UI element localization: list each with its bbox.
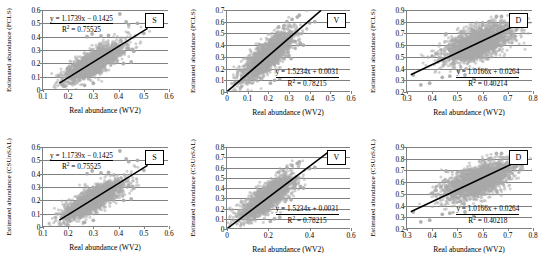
- y-axis-tick-mark: [224, 69, 227, 70]
- x-axis-tick-label: 0.4: [305, 94, 314, 103]
- y-axis-tick-mark: [404, 45, 407, 46]
- y-axis-tick-mark: [404, 206, 407, 207]
- y-axis-tick-mark: [224, 157, 227, 158]
- x-axis-tick-label: 0: [225, 231, 229, 240]
- x-axis-tick-label: 0.3: [89, 92, 98, 101]
- x-axis-tick-mark: [144, 89, 145, 92]
- panel-row-bottom: Estimated abundance (CSUnSAL)00.10.20.30…: [0, 137, 548, 274]
- x-axis-tick-mark: [351, 228, 352, 231]
- x-axis-tick-mark: [330, 91, 331, 94]
- x-axis-tick-label: 0.6: [478, 231, 487, 240]
- x-axis-label: Real abundance (WV2): [226, 245, 350, 254]
- x-axis-tick-mark: [457, 91, 458, 94]
- x-axis-label: Real abundance (WV2): [42, 243, 168, 252]
- regression-equation: y = 1.5234x + 0.0031: [276, 204, 339, 213]
- x-axis-tick-mark: [432, 91, 433, 94]
- x-axis-tick-label: 0.5: [139, 92, 148, 101]
- x-axis-tick-mark: [483, 228, 484, 231]
- y-axis-label-text: Estimated abundance (CSUnSAL): [5, 138, 13, 236]
- x-axis-tick-label: 0.4: [114, 92, 123, 101]
- regression-r2: R2 = 0.40214: [456, 77, 519, 89]
- y-axis-tick-mark: [40, 63, 43, 64]
- x-axis-tick-mark: [407, 91, 408, 94]
- regression-equation: y = 1.1739x − 0.1425: [50, 151, 113, 160]
- y-axis-label: Estimated abundance (CSUnSAL): [2, 147, 16, 227]
- regression-equation: y = 1.5234x + 0.0031: [276, 67, 339, 76]
- x-axis-tick-mark: [227, 91, 228, 94]
- panel-top-right: Estimated abundance (FCLS)0.20.30.40.50.…: [368, 0, 548, 137]
- y-axis-label-text: Estimated abundance (FCLS): [189, 9, 197, 93]
- x-axis-tick-mark: [248, 91, 249, 94]
- x-axis-tick-mark: [68, 89, 69, 92]
- x-axis-tick-label: 0.3: [284, 94, 293, 103]
- y-axis-tick-mark: [40, 23, 43, 24]
- x-axis-tick-label: 0.3: [89, 229, 98, 238]
- y-axis-tick-mark: [40, 174, 43, 175]
- y-axis-label-text: Estimated abundance (FCLS): [5, 8, 13, 92]
- y-axis-tick-mark: [404, 194, 407, 195]
- y-axis-tick-mark: [40, 77, 43, 78]
- x-axis-tick-label: 0.1: [243, 94, 252, 103]
- y-axis-label-text: Estimated abundance (FCLS): [369, 9, 377, 93]
- x-axis-label: Real abundance (WV2): [406, 245, 532, 254]
- x-axis-tick-mark: [119, 226, 120, 229]
- panel-top-left: Estimated abundance (FCLS)00.10.20.30.40…: [0, 0, 186, 137]
- x-axis-tick-label: 0.6: [164, 229, 173, 238]
- y-axis-tick-mark: [404, 182, 407, 183]
- x-axis-tick-mark: [144, 226, 145, 229]
- x-axis-tick-mark: [289, 91, 290, 94]
- x-axis-tick-label: 0.6: [346, 231, 355, 240]
- panel-bottom-middle: Estimated abundance (CSUnSAL)00.10.20.30…: [186, 137, 368, 274]
- y-axis-tick-mark: [224, 80, 227, 81]
- x-axis-tick-label: 0: [225, 94, 229, 103]
- y-axis-tick-mark: [404, 170, 407, 171]
- panel-bottom-right: Estimated abundance (CSUnSAL)0.20.30.40.…: [368, 137, 548, 274]
- panel-tag-s: S: [145, 13, 164, 28]
- x-axis-tick-label: 0.5: [326, 94, 335, 103]
- y-axis-tick-mark: [224, 10, 227, 11]
- x-axis-tick-label: 0.4: [428, 231, 437, 240]
- x-axis-tick-label: 0.2: [264, 94, 273, 103]
- x-axis-tick-mark: [93, 89, 94, 92]
- y-axis-label: Estimated abundance (CSUnSAL): [186, 147, 200, 229]
- x-axis-tick-label: 0.7: [503, 231, 512, 240]
- x-axis-label: Real abundance (WV2): [42, 106, 168, 115]
- x-axis-tick-label: 0.5: [453, 94, 462, 103]
- regression-equation: y = 1.0166x + 0.0264: [456, 67, 519, 76]
- y-axis-label: Estimated abundance (FCLS): [2, 10, 16, 90]
- panel-tag-v: V: [327, 150, 346, 165]
- x-axis-tick-label: 0.2: [64, 229, 73, 238]
- y-axis-tick-mark: [40, 10, 43, 11]
- y-axis-tick-mark: [224, 33, 227, 34]
- y-axis-tick-mark: [224, 198, 227, 199]
- y-axis-tick-mark: [40, 50, 43, 51]
- x-axis-tick-mark: [310, 91, 311, 94]
- y-axis-tick-mark: [224, 147, 227, 148]
- y-axis-tick-mark: [40, 160, 43, 161]
- y-axis-label: Estimated abundance (FCLS): [186, 10, 200, 92]
- x-axis-tick-label: 0.1: [38, 92, 47, 101]
- y-axis-tick-mark: [404, 80, 407, 81]
- y-axis-tick-mark: [224, 45, 227, 46]
- y-axis-label: Estimated abundance (FCLS): [366, 10, 380, 92]
- y-axis-tick-mark: [224, 209, 227, 210]
- x-axis-tick-label: 0.2: [264, 231, 273, 240]
- x-axis-tick-mark: [227, 228, 228, 231]
- y-axis-tick-mark: [404, 33, 407, 34]
- r2-value: = 0.40214: [476, 79, 507, 88]
- panel-top-middle: Estimated abundance (FCLS)00.10.20.30.40…: [186, 0, 368, 137]
- regression-equation: y = 1.0166x + 0.0264: [456, 204, 519, 213]
- x-axis-tick-mark: [43, 89, 44, 92]
- x-axis-tick-label: 0.3: [402, 231, 411, 240]
- regression-r2: R2 = 0.40218: [456, 214, 519, 226]
- x-axis-tick-mark: [119, 89, 120, 92]
- panel-tag-d: D: [509, 150, 528, 165]
- x-axis-tick-mark: [43, 226, 44, 229]
- x-axis-tick-label: 0.4: [428, 94, 437, 103]
- x-axis-tick-label: 0.5: [453, 231, 462, 240]
- y-axis-tick-mark: [404, 217, 407, 218]
- regression-annotation: y = 1.0166x + 0.0264R2 = 0.40214: [456, 67, 519, 88]
- regression-annotation: y = 1.1739x − 0.1425R2 = 0.75525: [50, 151, 113, 172]
- regression-r2: R2 = 0.78215: [276, 77, 339, 89]
- y-axis-tick-mark: [404, 159, 407, 160]
